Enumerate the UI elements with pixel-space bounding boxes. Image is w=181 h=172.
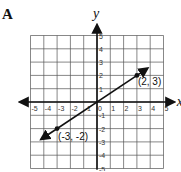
y-tick-label: 1 — [99, 86, 103, 93]
x-tick-label: -2 — [71, 105, 77, 112]
y-tick-label: -3 — [99, 139, 105, 146]
x-tick-label: 2 — [125, 105, 129, 112]
point-label: (-3, -2) — [58, 131, 88, 142]
x-axis-label: x — [176, 94, 181, 109]
x-tick-label: 5 — [165, 105, 169, 112]
y-tick-label: 4 — [99, 46, 103, 53]
y-tick-label: -4 — [99, 152, 105, 159]
y-tick-label: -2 — [99, 126, 105, 133]
x-tick-label: 1 — [111, 105, 115, 112]
y-tick-label: 3 — [99, 59, 103, 66]
x-tick-label: 0 — [98, 105, 102, 112]
x-tick-label: -4 — [45, 105, 51, 112]
y-tick-label: 5 — [99, 33, 103, 40]
coordinate-plane: xy-5-4-3-2-101234554321-1-2-3-4-5(2, 3)(… — [0, 0, 181, 171]
y-tick-label: -1 — [99, 112, 105, 119]
y-tick-label: -5 — [99, 166, 105, 172]
x-tick-label: 4 — [151, 105, 155, 112]
x-tick-label: 3 — [138, 105, 142, 112]
y-axis-label: y — [91, 6, 100, 21]
point-label: (2, 3) — [138, 76, 161, 87]
y-tick-label: 2 — [99, 72, 103, 79]
x-tick-label: -5 — [32, 105, 38, 112]
x-tick-label: -3 — [58, 105, 64, 112]
